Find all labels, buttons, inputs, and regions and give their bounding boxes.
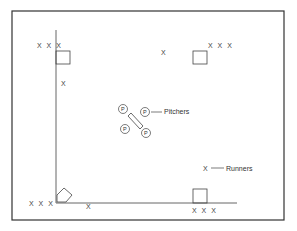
- runners-label: Runners: [226, 165, 253, 172]
- pitcher-2: P: [141, 108, 150, 117]
- pitchers-label: Pitchers: [164, 108, 190, 115]
- base-bottom-right: [193, 189, 207, 203]
- runners-bottom-left: X X X: [29, 200, 54, 207]
- runners-top-right: X X X: [208, 42, 233, 49]
- svg-text:P: P: [144, 130, 148, 136]
- pitcher-4: P: [142, 129, 151, 138]
- pitcher-3: P: [121, 125, 130, 134]
- base-top-left: [56, 51, 70, 64]
- runners-bottom-right: X X X: [192, 207, 217, 214]
- home-plate-icon: [57, 188, 72, 202]
- runner-top-center: X: [161, 49, 167, 56]
- svg-text:P: P: [123, 126, 127, 132]
- runner-legend-symbol: X: [203, 165, 209, 172]
- runners-top-left: X X X: [37, 42, 62, 49]
- pitching-rubber-icon: [128, 113, 143, 129]
- runner-bottom-line: X: [86, 203, 92, 210]
- baseball-drill-diagram: X X X X X X X X X X X X X X X P P P P Pi…: [0, 0, 297, 231]
- pitcher-1: P: [119, 105, 128, 114]
- svg-text:P: P: [143, 109, 147, 115]
- base-top-right: [193, 51, 207, 64]
- svg-text:P: P: [121, 106, 125, 112]
- runner-left-line: X: [61, 80, 67, 87]
